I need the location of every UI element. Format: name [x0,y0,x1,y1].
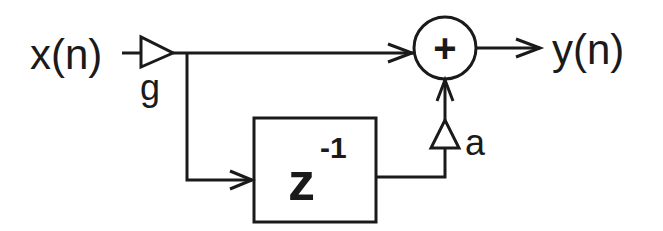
gain-g-triangle-icon [141,37,173,67]
delay-base: z [288,151,315,211]
output-label: y(n) [552,26,624,73]
gain-a-triangle-icon [431,120,459,148]
delay-block [254,118,376,222]
gain-g-label: g [140,67,160,108]
branch-wire [187,53,252,180]
delay-exponent: -1 [320,131,347,164]
delay-out-wire [376,148,445,177]
input-label: x(n) [30,31,102,78]
gain-a-label: a [465,122,486,163]
signal-flow-diagram: x(n) g z -1 a + y(n) [0,0,663,231]
summer-plus-icon: + [433,26,456,70]
